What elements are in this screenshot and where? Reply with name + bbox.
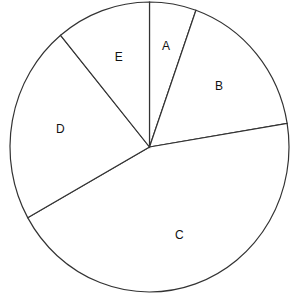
slice-label-d: D: [56, 122, 65, 136]
slice-label-e: E: [115, 50, 123, 64]
slice-label-a: A: [162, 39, 170, 53]
slice-label-b: B: [215, 79, 223, 93]
pie-chart: ABCDE: [0, 0, 291, 300]
slice-label-c: C: [175, 228, 184, 242]
